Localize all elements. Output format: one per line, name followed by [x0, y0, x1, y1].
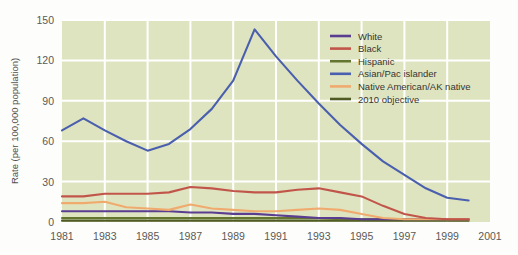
x-tick-label: 1995 [350, 230, 374, 242]
line-chart: 0306090120150 19811983198519871989199119… [0, 0, 518, 255]
x-tick-label: 1983 [93, 230, 117, 242]
y-tick-label: 150 [36, 14, 54, 26]
x-tick-label: 1987 [179, 230, 203, 242]
x-axis-ticks: 1981198319851987198919911993199519971999… [50, 230, 502, 242]
y-axis-label: Rate (per 100,000 population) [9, 58, 20, 184]
y-tick-label: 0 [48, 216, 54, 228]
x-tick-label: 1999 [436, 230, 460, 242]
legend-label: Black [358, 43, 381, 54]
y-tick-label: 60 [42, 135, 54, 147]
x-tick-label: 1981 [50, 230, 74, 242]
y-axis-ticks: 0306090120150 [36, 14, 54, 228]
x-tick-label: 1985 [136, 230, 160, 242]
chart-figure: 0306090120150 19811983198519871989199119… [0, 0, 518, 255]
x-tick-label: 2001 [478, 230, 502, 242]
legend-label: 2010 objective [358, 94, 419, 105]
x-tick-label: 1993 [307, 230, 331, 242]
x-tick-label: 1991 [264, 230, 288, 242]
legend-label: Native American/AK native [358, 81, 470, 92]
legend-label: Hispanic [358, 56, 395, 67]
x-tick-label: 1989 [222, 230, 246, 242]
legend-label: White [358, 31, 382, 42]
y-axis-label-text: Rate (per 100,000 population) [9, 58, 20, 184]
y-tick-label: 90 [42, 95, 54, 107]
y-tick-label: 120 [36, 54, 54, 66]
y-tick-label: 30 [42, 176, 54, 188]
x-tick-label: 1997 [393, 230, 417, 242]
legend-label: Asian/Pac islander [358, 68, 437, 79]
